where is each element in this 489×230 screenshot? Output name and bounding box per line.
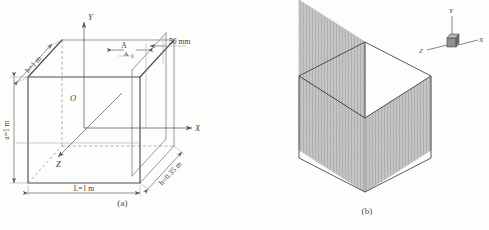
dimension-length: L=1 m: [28, 184, 140, 196]
panel-a-drawing: Y X Z O b=1 m a=1 m: [0, 0, 245, 230]
caption-panel-b: (b): [245, 206, 489, 216]
dimension-label-height: a=1 m: [2, 120, 11, 139]
hidden-edges: [28, 40, 174, 183]
panel-b-mesh: Y X Z (b): [245, 0, 489, 230]
triad-label-z: Z: [419, 47, 423, 55]
clipped-page-caption: [138, 221, 368, 230]
figure-root: Y X Z O b=1 m a=1 m: [0, 0, 489, 230]
section-label-a: A: [121, 41, 127, 50]
axis-label-z: Z: [56, 160, 61, 169]
dimension-label-offset: h=0.35 m: [157, 159, 184, 187]
dimension-label-slice: 50 mm: [169, 37, 190, 46]
section-label-a1: A: [124, 50, 129, 57]
triad-label-x: X: [478, 36, 484, 44]
axis-label-y: Y: [88, 13, 94, 22]
panel-b-drawing: Y X Z: [245, 0, 489, 230]
box-edges: [28, 40, 174, 183]
section-label-a1-subscript: 1: [131, 52, 134, 59]
origin-label: O: [70, 94, 76, 103]
dimension-label-length: L=1 m: [74, 184, 95, 193]
mesh-body: [299, 0, 431, 192]
triad-label-y: Y: [449, 7, 454, 15]
panel-a-schematic: Y X Z O b=1 m a=1 m: [0, 0, 245, 230]
caption-panel-a: (a): [0, 198, 245, 208]
section-marker: A A 1: [112, 41, 148, 128]
dimension-offset: h=0.35 m: [140, 146, 184, 191]
axis-label-x: X: [194, 124, 201, 133]
dimension-height: a=1 m: [2, 77, 140, 183]
coordinate-triad: Y X Z: [419, 7, 484, 55]
